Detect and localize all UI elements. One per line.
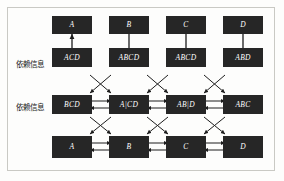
node-label: A|CD: [120, 100, 138, 108]
node-row2-col4[interactable]: ABD: [223, 48, 263, 67]
node-row3-col2[interactable]: A|CD: [109, 95, 149, 114]
node-row4-col1[interactable]: A: [52, 136, 92, 158]
node-row1-col1[interactable]: A: [52, 16, 92, 34]
node-row1-col4[interactable]: D: [223, 16, 263, 34]
node-row3-col4[interactable]: ABC: [223, 95, 263, 114]
row-label-dependency-info-3: 依赖信息: [16, 101, 44, 112]
figure-diagram: 依赖信息 依赖信息 A B C D ACD ABCD ABCD ABD BCD …: [0, 0, 284, 181]
node-row2-col1[interactable]: ACD: [52, 48, 92, 67]
node-label: ABC: [235, 100, 250, 108]
node-row2-col3[interactable]: ABCD: [166, 48, 206, 67]
node-label: B: [127, 143, 132, 151]
node-row3-col3[interactable]: AB|D: [166, 95, 206, 114]
node-row1-col3[interactable]: C: [166, 16, 206, 34]
node-label: ABCD: [176, 53, 197, 61]
node-row4-col4[interactable]: D: [223, 136, 263, 158]
node-label: A: [70, 143, 75, 151]
node-row1-col2[interactable]: B: [109, 16, 149, 34]
node-row4-col2[interactable]: B: [109, 136, 149, 158]
node-label: C: [183, 143, 188, 151]
node-label: ACD: [64, 53, 80, 61]
node-row3-col1[interactable]: BCD: [52, 95, 92, 114]
node-label: A: [70, 21, 75, 29]
edge-group-cross-upper: [90, 75, 225, 93]
edge-group-top-vertical: [72, 34, 243, 48]
node-row4-col3[interactable]: C: [166, 136, 206, 158]
node-row2-col2[interactable]: ABCD: [109, 48, 149, 67]
row-label-dependency-info-2: 依赖信息: [16, 58, 44, 69]
node-label: C: [183, 21, 188, 29]
node-label: ABCD: [119, 53, 140, 61]
edge-group-cross-lower: [90, 117, 225, 134]
node-label: D: [240, 143, 246, 151]
node-label: BCD: [64, 100, 80, 108]
node-label: ABD: [235, 53, 250, 61]
node-label: D: [240, 21, 246, 29]
node-label: B: [127, 21, 132, 29]
node-label: AB|D: [177, 100, 195, 108]
